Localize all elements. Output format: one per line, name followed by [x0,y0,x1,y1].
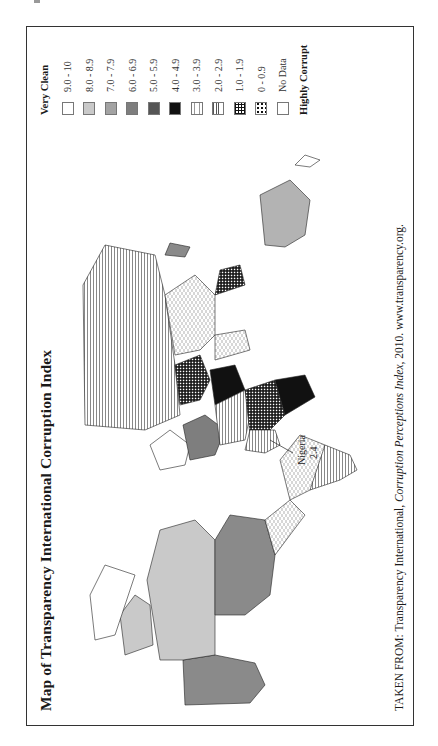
region-southeast-asia [215,265,245,295]
nigeria-label-value: 2.4 [308,447,319,460]
caption-prefix: TAKEN FROM: Transparency International, [393,502,405,711]
legend-item-label: 3.0 - 3.9 [191,59,202,92]
region-russia [83,245,180,430]
legend-item-label: 2.0 - 2.9 [213,59,224,92]
rotated-page: Map of Transparency International Corrup… [0,0,438,746]
source-caption: TAKEN FROM: Transparency International, … [393,224,405,711]
legend-swatch-dashed [191,102,203,115]
region-usa [215,515,275,615]
region-japan [165,243,190,257]
figure-frame: Map of Transparency International Corrup… [26,26,414,726]
region-scandinavia [150,430,190,470]
legend-item-label: 5.0 - 5.9 [148,59,159,92]
caption-source-title: Corruption Perceptions Index [393,365,405,503]
map-title: Map of Transparency International Corrup… [37,350,55,711]
legend-item: 5.0 - 5.9 [143,39,165,115]
legend-swatch-black [169,102,181,115]
legend-item-label: 9.0 - 10 [62,61,73,92]
nigeria-label-name: Nigeria [296,434,307,465]
legend-top-label: Very Clean [39,39,50,115]
legend-swatch-white [277,102,289,115]
legend-item-label: 0 - 0.9 [256,66,267,92]
legend-swatch-light-gray [83,102,95,115]
legend-swatch-darker-gray [148,102,160,115]
region-india [215,330,250,360]
region-alaska [183,655,265,705]
legend-item: No Data [272,39,294,115]
legend: Very Clean 9.0 - 108.0 - 8.97.0 - 7.96.0… [39,39,309,115]
legend-item-label: 7.0 - 7.9 [105,59,116,92]
legend-item: 7.0 - 7.9 [100,39,122,115]
legend-item: 0 - 0.9 [251,39,273,115]
legend-item: 8.0 - 8.9 [79,39,101,115]
region-new-zealand [295,155,320,167]
legend-swatch-dots [255,102,267,115]
legend-item-label: No Data [277,58,288,92]
legend-item-label: 4.0 - 4.9 [170,59,181,92]
legend-item: 4.0 - 4.9 [165,39,187,115]
region-australia [260,180,310,247]
region-africa-west [245,430,280,453]
legend-item: 9.0 - 10 [57,39,79,115]
caption-suffix: , 2010. www.transparency.org. [393,224,405,364]
region-canada [147,520,215,660]
legend-swatch-white [62,102,74,115]
legend-swatch-dark-gray [126,102,138,115]
legend-item-label: 1.0 - 1.9 [234,59,245,92]
legend-item-label: 8.0 - 8.9 [84,59,95,92]
world-map: Nigeria 2.4 [65,115,365,715]
legend-item: 1.0 - 1.9 [229,39,251,115]
legend-item: 3.0 - 3.9 [186,39,208,115]
legend-item-label: 6.0 - 6.9 [127,59,138,92]
legend-swatch-mid-gray [105,102,117,115]
region-china [165,275,215,355]
legend-bottom-label: Highly Corrupt [298,39,309,115]
legend-item: 6.0 - 6.9 [122,39,144,115]
legend-item: 2.0 - 2.9 [208,39,230,115]
region-central-asia [175,355,210,405]
legend-swatch-horizontal-lines [212,102,224,115]
legend-swatch-grid [234,102,246,115]
legend-items: 9.0 - 108.0 - 8.97.0 - 7.96.0 - 6.95.0 -… [57,39,294,115]
